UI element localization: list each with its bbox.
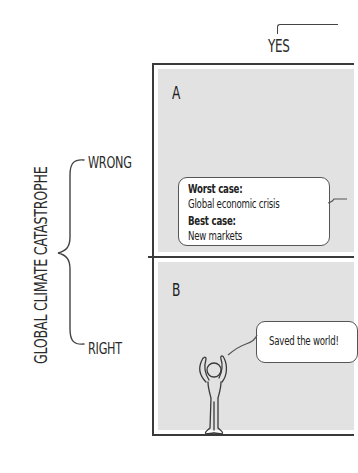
row-label-wrong: WRONG xyxy=(88,153,132,172)
worst-case-label: Worst case: xyxy=(188,182,242,196)
panel-a-letter: A xyxy=(172,83,180,103)
yes-column-bracket xyxy=(277,24,338,34)
panel-a-speech-bubble: Worst case: Global economic crisis Best … xyxy=(178,177,330,246)
panel-b-speech-bubble: Saved the world! xyxy=(256,321,358,363)
row-label-right: RIGHT xyxy=(88,339,122,358)
panel-a-bubble-tail-icon xyxy=(327,197,347,217)
curly-brace-icon xyxy=(54,157,86,347)
panel-b-letter: B xyxy=(172,280,180,300)
cheering-person-icon xyxy=(194,350,234,438)
panel-b-bubble-text: Saved the world! xyxy=(269,334,339,348)
best-case-label: Best case: xyxy=(188,214,236,228)
best-case-value: New markets xyxy=(188,229,242,243)
worst-case-value: Global economic crisis xyxy=(188,197,280,211)
yes-column-label: YES xyxy=(268,36,290,56)
matrix-grid: A Worst case: Global economic crisis Bes… xyxy=(152,63,354,436)
panel-a: A Worst case: Global economic crisis Bes… xyxy=(158,69,354,252)
axis-title: GLOBAL CLIMATE CATASTROPHE xyxy=(30,167,51,364)
row-divider xyxy=(148,256,354,258)
panel-b: B Saved the world! xyxy=(158,262,354,430)
